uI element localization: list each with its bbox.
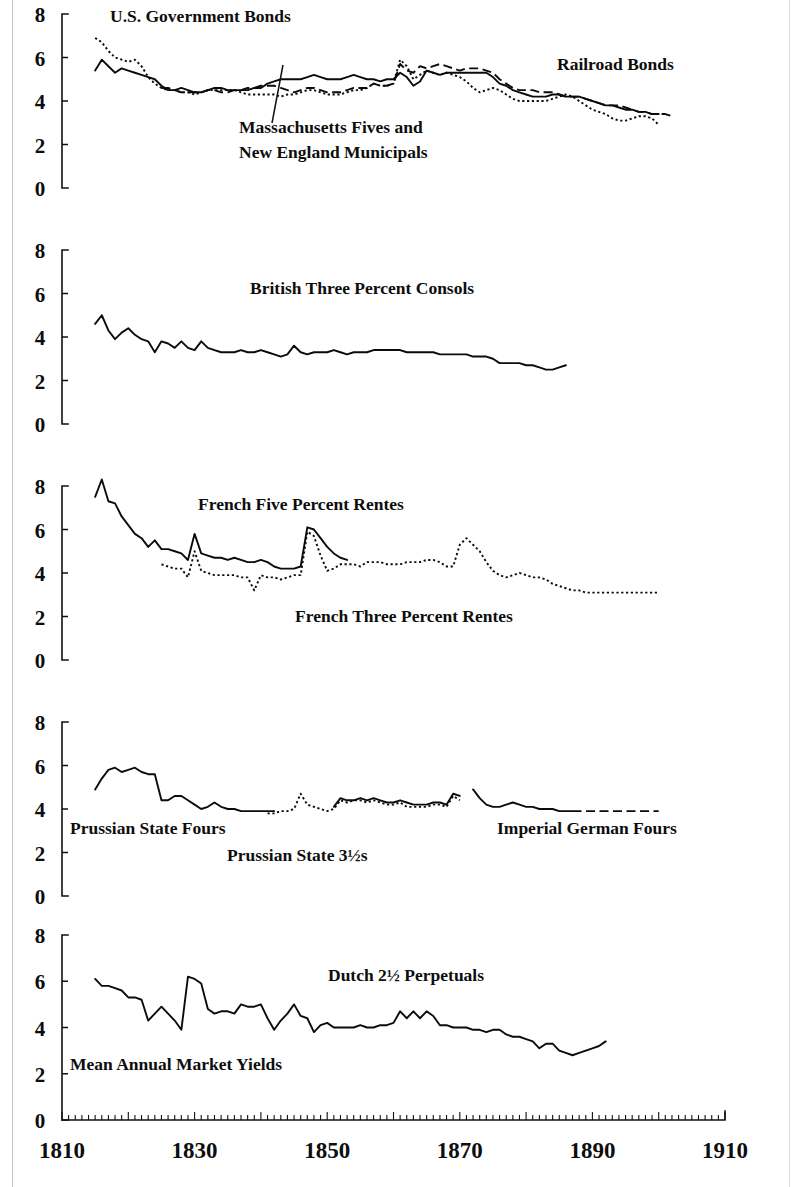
label-british-three-percent-consols: British Three Percent Consols [250, 278, 474, 298]
y-tick-label-8: 8 [35, 475, 46, 499]
y-tick-label-6: 6 [35, 970, 46, 994]
panel-series-1 [95, 315, 566, 369]
label-french-five-percent-rentes: French Five Percent Rentes [198, 494, 404, 514]
label-prussian-state-fours: Prussian State Fours [70, 818, 226, 838]
x-tick-label-1850: 1850 [304, 1138, 350, 1163]
series-french-three-percent-rentes [161, 532, 658, 593]
panel-axis-germany: 02468 [35, 711, 68, 909]
y-tick-label-4: 4 [35, 798, 46, 822]
x-tick-label-1890: 1890 [569, 1138, 615, 1163]
label-prussian-state-three-and-a-half: Prussian State 3½s [227, 845, 368, 865]
y-tick-label-4: 4 [35, 90, 46, 114]
series-prussian-state-3-s-overlay [334, 794, 460, 807]
y-tick-label-8: 8 [35, 3, 46, 27]
label-railroad-bonds: Railroad Bonds [557, 54, 674, 74]
label-french-three-percent-rentes: French Three Percent Rentes [295, 606, 513, 626]
y-tick-label-6: 6 [35, 47, 46, 71]
series-prussian-state-fours [95, 768, 274, 812]
y-tick-label-4: 4 [35, 326, 46, 350]
series-dutch-2-perpetuals [95, 977, 606, 1056]
y-tick-label-0: 0 [35, 177, 46, 201]
x-tick-label-1810: 1810 [39, 1138, 85, 1163]
y-tick-label-8: 8 [35, 924, 46, 948]
figure-root: 0246802468024680246802468181018301850187… [0, 0, 801, 1187]
x-tick-label-1830: 1830 [172, 1138, 218, 1163]
panel-axis-great-britain: 02468 [35, 239, 68, 437]
series-british-three-percent-consols [95, 315, 566, 369]
y-tick-label-2: 2 [35, 606, 46, 630]
y-tick-label-2: 2 [35, 842, 46, 866]
y-tick-label-0: 0 [35, 413, 46, 437]
yield-chart-svg: 0246802468024680246802468181018301850187… [0, 0, 801, 1187]
y-tick-label-0: 0 [35, 649, 46, 673]
panel-series-3 [95, 768, 659, 814]
panel-series-4 [95, 977, 606, 1056]
series-french-five-percent-rentes [95, 479, 347, 568]
y-tick-label-2: 2 [35, 1063, 46, 1087]
x-tick-label-1870: 1870 [437, 1138, 483, 1163]
series-railroad-bonds [95, 38, 659, 125]
panel-axis-netherlands: 02468 [35, 924, 68, 1133]
label-massachusetts-fives-line2: New England Municipals [239, 142, 428, 162]
panel-axis-united-states: 02468 [35, 3, 68, 201]
y-tick-label-6: 6 [35, 755, 46, 779]
panel-series-0 [95, 38, 672, 125]
y-tick-label-8: 8 [35, 239, 46, 263]
y-tick-label-6: 6 [35, 519, 46, 543]
y-tick-label-0: 0 [35, 885, 46, 909]
x-axis: 181018301850187018901910 [39, 1111, 748, 1163]
panel-axis-france: 02468 [35, 475, 68, 673]
y-tick-label-2: 2 [35, 134, 46, 158]
y-tick-label-6: 6 [35, 283, 46, 307]
y-tick-label-4: 4 [35, 1017, 46, 1041]
label-imperial-german-fours: Imperial German Fours [497, 818, 677, 838]
label-massachusetts-fives-line1: Massachusetts Fives and [239, 117, 423, 137]
label-mean-annual-market-yields: Mean Annual Market Yields [70, 1054, 282, 1074]
x-tick-label-1910: 1910 [702, 1138, 748, 1163]
series-imperial-german-fours [473, 789, 572, 811]
y-tick-label-8: 8 [35, 711, 46, 735]
y-tick-label-2: 2 [35, 370, 46, 394]
y-tick-label-4: 4 [35, 562, 46, 586]
y-tick-label-0: 0 [35, 1109, 46, 1133]
label-us-government-bonds: U.S. Government Bonds [110, 6, 291, 26]
label-dutch-two-and-a-half-perpetuals: Dutch 2½ Perpetuals [328, 965, 484, 985]
